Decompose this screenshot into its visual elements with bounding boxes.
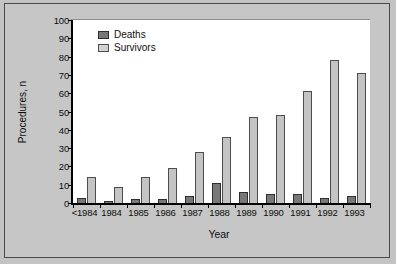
x-axis-title: Year bbox=[208, 228, 229, 240]
y-axis-tick-mark bbox=[68, 148, 73, 149]
y-axis-tick-mark bbox=[68, 130, 73, 131]
x-axis-tick-label: 1987 bbox=[182, 207, 202, 218]
legend-item-survivors: Survivors bbox=[98, 41, 156, 54]
x-axis-tick-label: <1984 bbox=[72, 207, 98, 218]
bar-survivors-1989 bbox=[249, 117, 258, 203]
y-axis-tick-mark bbox=[68, 38, 73, 39]
x-axis-tick-label: 1990 bbox=[263, 207, 283, 218]
bar-survivors-1986 bbox=[168, 168, 177, 203]
legend-label-deaths: Deaths bbox=[114, 29, 146, 40]
legend-swatch-survivors-icon bbox=[98, 44, 109, 52]
bar-survivors-1988 bbox=[222, 137, 231, 203]
bar-deaths-1985 bbox=[131, 199, 140, 203]
bar-deaths-lt1984 bbox=[77, 198, 86, 203]
legend-item-deaths: Deaths bbox=[98, 28, 156, 41]
bar-deaths-1989 bbox=[239, 192, 248, 203]
bar-survivors-1993 bbox=[357, 73, 366, 203]
bar-survivors-1987 bbox=[195, 152, 204, 203]
y-axis-tick-mark bbox=[68, 185, 73, 186]
plot-area: 0102030405060708090100 Deaths Survivors bbox=[71, 20, 370, 205]
bar-deaths-1992 bbox=[320, 198, 329, 203]
bar-survivors-1991 bbox=[303, 91, 312, 203]
bar-deaths-1988 bbox=[212, 183, 221, 203]
y-axis-title: Procedures, n bbox=[17, 81, 28, 143]
x-axis-tick-label: 1993 bbox=[344, 207, 364, 218]
y-axis-tick-mark bbox=[68, 20, 73, 21]
legend-swatch-deaths-icon bbox=[98, 31, 109, 39]
x-axis-tick-label: 1991 bbox=[290, 207, 310, 218]
bar-deaths-1990 bbox=[266, 194, 275, 203]
bar-deaths-1987 bbox=[185, 196, 194, 203]
x-axis-tick-mark bbox=[370, 203, 371, 208]
bar-survivors-1990 bbox=[276, 115, 285, 203]
bar-survivors-1984 bbox=[114, 187, 123, 203]
x-axis-tick-label: 1988 bbox=[209, 207, 229, 218]
y-axis-tick-mark bbox=[68, 93, 73, 94]
bar-survivors-lt1984 bbox=[87, 177, 96, 203]
x-axis-tick-label: 1984 bbox=[101, 207, 121, 218]
bar-survivors-1992 bbox=[330, 60, 339, 203]
figure: Procedures, n 0102030405060708090100 Dea… bbox=[0, 0, 396, 264]
bar-deaths-1993 bbox=[347, 196, 356, 203]
x-axis-tick-label: 1985 bbox=[128, 207, 148, 218]
y-axis-tick-mark bbox=[68, 75, 73, 76]
x-axis-tick-label: 1992 bbox=[317, 207, 337, 218]
bar-deaths-1991 bbox=[293, 194, 302, 203]
y-axis-tick-mark bbox=[68, 57, 73, 58]
x-axis-tick-label: 1986 bbox=[155, 207, 175, 218]
y-axis-tick-mark bbox=[68, 112, 73, 113]
chart-legend: Deaths Survivors bbox=[98, 28, 156, 54]
bar-deaths-1984 bbox=[104, 201, 113, 203]
x-axis-tick-label: 1989 bbox=[236, 207, 256, 218]
y-axis-tick-mark bbox=[68, 166, 73, 167]
y-axis-tick-label: 100 bbox=[54, 15, 69, 26]
legend-label-survivors: Survivors bbox=[114, 42, 156, 53]
bar-deaths-1986 bbox=[158, 199, 167, 203]
bar-survivors-1985 bbox=[141, 177, 150, 203]
